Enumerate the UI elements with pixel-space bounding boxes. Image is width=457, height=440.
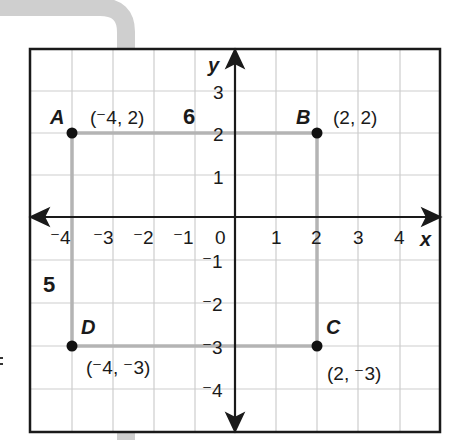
x-tick-label: 4 bbox=[394, 227, 405, 248]
point-a bbox=[67, 128, 78, 139]
x-tick-label: 2 bbox=[311, 227, 322, 248]
x-tick-label: ⁻2 bbox=[133, 227, 154, 248]
y-tick-label: ⁻4 bbox=[202, 380, 223, 401]
y-axis-label: y bbox=[207, 54, 220, 76]
y-tick-label: ⁻3 bbox=[202, 337, 223, 358]
coordinate-plane-diagram: y x ⁻4 ⁻3 ⁻2 ⁻1 0 1 2 3 4 3 2 1 ⁻1 ⁻2 ⁻3… bbox=[0, 0, 457, 440]
left-margin-mark bbox=[0, 357, 3, 359]
point-a-coord: (⁻4, 2) bbox=[90, 107, 144, 128]
top-side-length: 6 bbox=[183, 104, 195, 129]
point-d bbox=[67, 341, 78, 352]
x-tick-label: 0 bbox=[215, 227, 226, 248]
x-axis-label: x bbox=[419, 228, 432, 250]
x-tick-label: ⁻3 bbox=[93, 227, 114, 248]
left-side-length: 5 bbox=[43, 272, 55, 297]
point-c-label: C bbox=[326, 316, 341, 338]
point-b bbox=[312, 128, 323, 139]
y-tick-label: ⁻2 bbox=[202, 294, 223, 315]
y-tick-label: ⁻1 bbox=[202, 251, 223, 272]
point-d-coord: (⁻4, ⁻3) bbox=[86, 357, 150, 378]
y-tick-label: 3 bbox=[213, 82, 224, 103]
point-d-label: D bbox=[81, 316, 95, 338]
x-tick-label: ⁻4 bbox=[50, 227, 71, 248]
left-margin-mark bbox=[0, 363, 3, 365]
x-tick-label: 1 bbox=[271, 227, 282, 248]
x-tick-label: ⁻1 bbox=[173, 227, 194, 248]
decorative-tab-band bbox=[0, 7, 126, 49]
point-c bbox=[312, 341, 323, 352]
x-tick-label: 3 bbox=[353, 227, 364, 248]
point-c-coord: (2, ⁻3) bbox=[327, 363, 381, 384]
point-b-coord: (2, 2) bbox=[333, 107, 377, 128]
point-b-label: B bbox=[296, 106, 310, 128]
point-a-label: A bbox=[49, 106, 64, 128]
y-tick-label: 1 bbox=[213, 167, 224, 188]
y-tick-label: 2 bbox=[213, 124, 224, 145]
